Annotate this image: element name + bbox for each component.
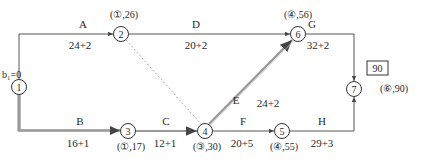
node-4: 4: [198, 124, 213, 139]
activity-c-duration: 12+1: [154, 137, 177, 149]
total-duration-value: 90: [373, 63, 383, 74]
activity-b-name: B: [76, 115, 83, 127]
activity-g-duration: 32+2: [307, 39, 330, 51]
activity-f-name: F: [240, 115, 246, 127]
activity-b-duration: 16+1: [67, 137, 90, 149]
activity-a-duration: 24+2: [69, 39, 92, 51]
node-6: 6: [291, 27, 306, 42]
activity-d-name: D: [192, 18, 200, 30]
node-4-annotation: (③,30): [193, 141, 221, 153]
node-label: 7: [352, 84, 357, 95]
activity-e: [209, 40, 294, 125]
node-3-annotation: (①,17): [117, 141, 145, 153]
activity-f-duration: 20+5: [231, 137, 254, 149]
node-3: 3: [121, 124, 136, 139]
node-5: 5: [275, 124, 290, 139]
dummy-activity: [126, 40, 201, 124]
node-2-annotation: (①,26): [110, 9, 138, 21]
node-label: 1: [17, 82, 22, 93]
node-label: 3: [126, 126, 131, 137]
start-time-label: b₁=0: [2, 69, 21, 80]
total-duration-box: 90: [367, 61, 388, 75]
node-label: 6: [296, 29, 301, 40]
activity-c-name: C: [162, 115, 169, 127]
node-6-annotation: (④,56): [284, 9, 312, 21]
activity-a-name: A: [79, 18, 87, 30]
node-label: 5: [280, 126, 285, 137]
activity-h-name: H: [318, 115, 326, 127]
activity-b: [18, 94, 120, 131]
node-1: 1: [12, 80, 27, 95]
activity-e-name: E: [233, 94, 240, 106]
node-2: 2: [114, 27, 129, 42]
node-label: 4: [203, 126, 208, 137]
node-5-annotation: (④,55): [270, 141, 298, 153]
activity-e-duration: 24+2: [257, 97, 280, 109]
network-diagram: 1 2 3 4 5 6 7 A 24+2 B 16+1 C 12+1 D 20+…: [0, 0, 425, 168]
node-label: 2: [119, 29, 124, 40]
activity-d-duration: 20+2: [185, 39, 208, 51]
node-7-annotation: (⑥,90): [380, 83, 408, 95]
activity-a: [19, 34, 113, 80]
activity-h-duration: 29+3: [311, 137, 334, 149]
node-7: 7: [347, 82, 362, 97]
